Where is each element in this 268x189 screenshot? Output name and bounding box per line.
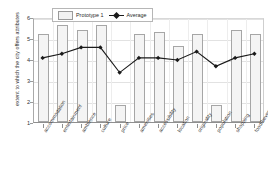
x-tick-label: originality	[196, 111, 213, 133]
x-tick-label: ambience	[80, 111, 97, 133]
legend-item-average: Average	[109, 12, 147, 19]
x-tick-label: food/beverages	[253, 100, 268, 134]
x-tick-label: population	[215, 110, 233, 134]
x-tick-label: location	[176, 115, 191, 133]
legend-label-average: Average	[127, 12, 147, 18]
legend-item-prototype-1: Prototype 1	[58, 11, 104, 20]
chart-container: Prototype 1 Average extent to which the …	[0, 0, 268, 189]
x-tick-label: accessibility	[157, 106, 177, 133]
chart-legend: Prototype 1 Average	[52, 8, 153, 22]
x-tick-label: amenities	[138, 111, 155, 133]
legend-line-marker-icon	[109, 12, 124, 19]
x-tick-label: price	[119, 120, 130, 133]
x-axis-labels: accommodationentertainmentambiencecultur…	[0, 0, 268, 189]
legend-label-prototype-1: Prototype 1	[76, 12, 104, 18]
legend-bar-swatch-icon	[58, 11, 73, 20]
x-tick-label: shopping	[234, 112, 250, 133]
x-tick-label: culture	[99, 117, 112, 133]
